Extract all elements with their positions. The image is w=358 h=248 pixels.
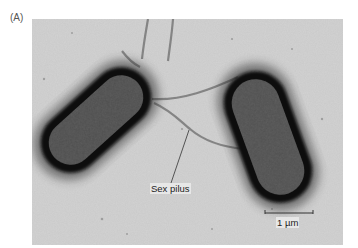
sex-pilus-label: Sex pilus (150, 183, 191, 194)
panel-label: (A) (10, 12, 23, 23)
scale-bar-label: 1 µm (276, 217, 299, 228)
micrograph (32, 19, 343, 245)
